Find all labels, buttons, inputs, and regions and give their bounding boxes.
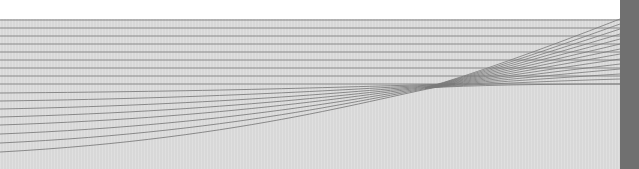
pattern-line — [0, 84, 455, 93]
line-pattern-graphic — [0, 0, 639, 169]
pattern-line — [0, 84, 455, 134]
right-side-bar — [620, 0, 639, 169]
